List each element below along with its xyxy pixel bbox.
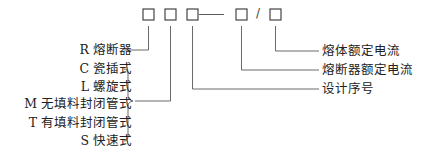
label-fuse-rated-current: 熔断器额定电流 xyxy=(322,63,413,77)
label-s-fast: S 快速式 xyxy=(80,134,132,148)
label-t-filled: T 有填料封闭管式 xyxy=(29,116,132,130)
code-box-3 xyxy=(187,9,198,20)
label-r-fuse: R 熔断器 xyxy=(80,43,132,57)
label-l-spiral: L 螺旋式 xyxy=(81,80,132,94)
leader-box-5 xyxy=(276,26,320,51)
code-box-4 xyxy=(236,9,247,20)
label-design-serial: 设计序号 xyxy=(322,82,374,96)
leader-box-3 xyxy=(193,26,320,89)
leader-box-4 xyxy=(242,26,320,70)
diagram-lines xyxy=(0,0,425,155)
code-box-5 xyxy=(270,9,281,20)
label-c-porcelain: C 瓷插式 xyxy=(79,62,132,76)
code-box-2 xyxy=(165,9,176,20)
code-box-1 xyxy=(143,9,154,20)
label-fuse-element-current: 熔体额定电流 xyxy=(322,44,400,58)
label-m-unfilled: M 无填料封闭管式 xyxy=(24,97,132,111)
separator-slash: / xyxy=(256,6,260,20)
leader-box-2 xyxy=(135,26,171,101)
